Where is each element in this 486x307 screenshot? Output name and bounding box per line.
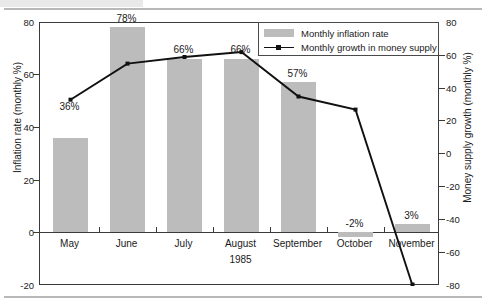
- legend-line-marker-icon: [264, 43, 294, 51]
- x-tick-mark: [156, 227, 157, 232]
- bar-may[interactable]: [53, 138, 88, 233]
- x-tick-mark: [327, 227, 328, 232]
- bar-label-august: 66%: [230, 44, 250, 55]
- legend-item-money-supply[interactable]: Monthly growth in money supply: [264, 41, 433, 53]
- legend-swatch-icon: [264, 29, 294, 37]
- x-tick-mark: [99, 227, 100, 232]
- bar-september[interactable]: [281, 82, 316, 232]
- right-tick-mark: [439, 88, 445, 89]
- right-axis-tick-neg20: -20: [446, 181, 460, 192]
- bar-november[interactable]: [395, 224, 430, 232]
- zero-baseline: [40, 232, 438, 233]
- x-label-november: November: [388, 238, 434, 249]
- legend-item-inflation[interactable]: Monthly inflation rate: [264, 27, 433, 39]
- right-axis-tick-neg40: -40: [446, 214, 460, 225]
- bar-label-may: 36%: [59, 101, 79, 112]
- x-label-august: August: [225, 238, 256, 249]
- legend-label-inflation: Monthly inflation rate: [301, 28, 389, 39]
- right-axis-tick-80: 80: [446, 17, 457, 28]
- x-axis-year-label: 1985: [229, 254, 251, 265]
- bar-july[interactable]: [167, 59, 202, 232]
- left-axis-tick-0: 0: [6, 227, 34, 238]
- x-label-october: October: [337, 238, 373, 249]
- right-axis-tick-20: 20: [446, 115, 457, 126]
- left-axis-tick-neg20: -20: [6, 280, 34, 291]
- bar-label-november: 3%: [404, 210, 418, 221]
- left-axis-tick-20: 20: [6, 175, 34, 186]
- bar-june[interactable]: [110, 27, 145, 232]
- divider-top: [4, 8, 482, 10]
- bar-label-june: 78%: [116, 13, 136, 24]
- bar-october[interactable]: [338, 232, 373, 237]
- right-tick-mark: [439, 120, 445, 121]
- x-label-july: July: [175, 238, 193, 249]
- bar-label-october: -2%: [346, 218, 364, 229]
- right-axis-tick-neg80: -80: [446, 280, 460, 291]
- bar-label-july: 66%: [173, 44, 193, 55]
- right-tick-mark: [439, 55, 445, 56]
- left-axis-tick-40: 40: [6, 122, 34, 133]
- right-tick-mark: [439, 186, 445, 187]
- right-axis-title: Money supply growth (monthly %): [462, 28, 473, 228]
- legend-label-money-supply: Monthly growth in money supply: [301, 42, 437, 53]
- right-axis-tick-neg60: -60: [446, 247, 460, 258]
- right-tick-mark: [439, 219, 445, 220]
- page-top-strip: [0, 0, 143, 7]
- left-axis-tick-80: 80: [6, 17, 34, 28]
- x-label-may: May: [60, 238, 79, 249]
- left-axis-tick-60: 60: [6, 69, 34, 80]
- x-tick-mark: [270, 227, 271, 232]
- right-tick-mark: [439, 252, 445, 253]
- x-label-september: September: [273, 238, 322, 249]
- bar-label-september: 57%: [287, 68, 307, 79]
- right-tick-mark: [439, 153, 445, 154]
- x-tick-mark: [384, 227, 385, 232]
- right-axis-tick-0: 0: [446, 148, 451, 159]
- left-axis-title: Inflation rate (monthly %): [12, 18, 23, 218]
- divider-bottom: [4, 296, 482, 298]
- right-axis-tick-40: 40: [446, 83, 457, 94]
- x-tick-mark: [213, 227, 214, 232]
- x-label-june: June: [116, 238, 138, 249]
- bar-august[interactable]: [224, 59, 259, 232]
- right-axis-tick-60: 60: [446, 50, 457, 61]
- chart-legend: Monthly inflation rate Monthly growth in…: [258, 22, 439, 56]
